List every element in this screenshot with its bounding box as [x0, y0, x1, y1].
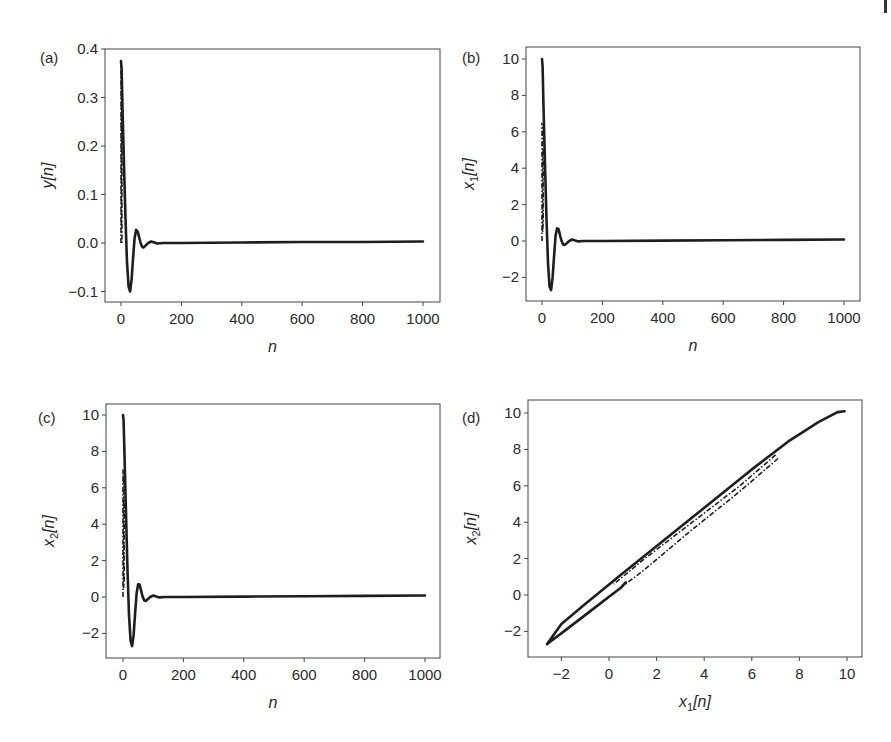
y-axis-label-c: x2[n]	[40, 514, 60, 547]
y-tick-label-a: 0.3	[77, 89, 98, 106]
panel-label-c: (c)	[38, 409, 56, 426]
x-tick-label-d: 4	[700, 665, 708, 682]
y-tick-label-a: 0.4	[77, 40, 98, 57]
y-tick-label-c: 6	[91, 479, 99, 496]
x-axis-label-d: x1[n]	[678, 693, 711, 713]
series-c-0	[123, 415, 425, 646]
series-a-0	[121, 61, 423, 291]
panel-d: (d) −20246810−20246810x1[n]x2[n]	[462, 400, 862, 713]
x-tick-label-c: 1000	[408, 666, 441, 683]
y-tick-label-d: 4	[513, 513, 521, 530]
x-tick-label-d: 2	[652, 665, 660, 682]
x-tick-label-a: 200	[169, 310, 194, 327]
axes-frame-d	[528, 400, 862, 657]
x-tick-label-d: 0	[605, 665, 613, 682]
y-tick-label-d: 2	[513, 550, 521, 567]
panel-label-d: (d)	[462, 409, 480, 426]
panel-label-a: (a)	[40, 49, 58, 66]
axes-frame-a	[105, 49, 440, 302]
series-b-0	[542, 59, 844, 290]
x-tick-label-d: −2	[553, 665, 570, 682]
y-tick-label-d: 6	[513, 477, 521, 494]
panel-b: (b) 02004006008001000−20246810nx1[n]	[460, 47, 861, 354]
y-tick-label-d: 8	[513, 440, 521, 457]
panel-a: (a) 02004006008001000−0.10.00.10.20.30.4…	[39, 40, 440, 355]
y-tick-label-a: −0.1	[68, 283, 98, 300]
axes-frame-c	[106, 404, 440, 658]
y-tick-label-a: 0.1	[77, 186, 98, 203]
x-tick-label-a: 0	[117, 310, 125, 327]
x-tick-label-c: 0	[119, 666, 127, 683]
panel-c: (c) 02004006008001000−20246810nx2[n]	[38, 404, 442, 711]
series-c-1	[123, 470, 124, 597]
y-tick-label-b: 6	[511, 123, 519, 140]
series-b-1	[542, 123, 543, 241]
y-tick-label-b: 10	[502, 50, 519, 67]
x-tick-label-b: 200	[590, 309, 615, 326]
y-tick-label-d: −2	[504, 622, 521, 639]
y-tick-label-a: 0.0	[77, 234, 98, 251]
series-d-1	[604, 459, 778, 601]
x-tick-label-a: 800	[350, 310, 375, 327]
x-axis-label-c: n	[269, 694, 278, 711]
x-tick-label-b: 1000	[827, 309, 860, 326]
x-tick-label-a: 600	[290, 310, 315, 327]
x-tick-label-b: 600	[711, 309, 736, 326]
y-tick-label-b: 4	[511, 159, 519, 176]
x-tick-label-d: 6	[748, 665, 756, 682]
y-tick-label-d: 10	[504, 404, 521, 421]
y-tick-label-c: 2	[91, 552, 99, 569]
axes-frame-b	[526, 47, 860, 301]
y-tick-label-c: 8	[91, 442, 99, 459]
x-tick-label-c: 200	[171, 666, 196, 683]
panel-label-b: (b)	[462, 49, 480, 66]
x-tick-label-c: 400	[231, 666, 256, 683]
y-tick-label-c: 0	[91, 588, 99, 605]
series-a-1	[121, 64, 122, 243]
y-axis-label-d: x2[n]	[462, 512, 482, 545]
y-tick-label-a: 0.2	[77, 137, 98, 154]
x-tick-label-a: 400	[229, 310, 254, 327]
y-axis-label-b: x1[n]	[460, 157, 480, 190]
x-tick-label-b: 0	[538, 309, 546, 326]
y-axis-label-a: y[n]	[39, 162, 56, 189]
y-tick-label-b: −2	[502, 268, 519, 285]
figure: (a) 02004006008001000−0.10.00.10.20.30.4…	[0, 0, 891, 742]
x-tick-label-c: 600	[292, 666, 317, 683]
y-tick-label-b: 2	[511, 196, 519, 213]
y-tick-label-c: −2	[82, 624, 99, 641]
y-tick-label-d: 0	[513, 586, 521, 603]
y-tick-label-b: 8	[511, 86, 519, 103]
y-tick-label-c: 10	[82, 406, 99, 423]
x-tick-label-a: 1000	[406, 310, 439, 327]
y-tick-label-b: 0	[511, 232, 519, 249]
x-tick-label-b: 400	[650, 309, 675, 326]
x-tick-label-c: 800	[352, 666, 377, 683]
x-tick-label-d: 8	[795, 665, 803, 682]
y-tick-label-c: 4	[91, 515, 99, 532]
series-d-2	[614, 455, 776, 584]
x-tick-label-d: 10	[839, 665, 856, 682]
x-tick-label-b: 800	[771, 309, 796, 326]
x-axis-label-b: n	[689, 337, 698, 354]
x-axis-label-a: n	[268, 338, 277, 355]
